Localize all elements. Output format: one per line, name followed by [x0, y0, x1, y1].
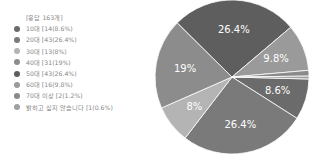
legend-item: 밝히고 싶지 않습니다 [1(0.6%) [14, 102, 113, 113]
slice-label: 19% [174, 63, 196, 74]
legend: [응답 163개] 10대 [14(8.6%) 20대 [43(26.4%) 3… [14, 12, 113, 113]
legend-item: 50대 [43(26.4%) [14, 68, 113, 79]
legend-item: 30대 [13(8%) [14, 46, 113, 57]
legend-dot-icon [14, 37, 20, 43]
legend-total: [응답 163개] [26, 12, 113, 23]
legend-item: 60대 [16(9.8%) [14, 79, 113, 90]
legend-dot-icon [14, 59, 20, 65]
legend-item: 20대 [43(26.4%) [14, 34, 113, 45]
slice-label: 9.8% [263, 53, 288, 64]
legend-dot-icon [14, 71, 20, 77]
slice-label: 8% [186, 101, 202, 112]
slice-label: 26.4% [218, 24, 250, 35]
legend-dot-icon [14, 26, 20, 32]
legend-dot-icon [14, 93, 20, 99]
legend-item: 10대 [14(8.6%) [14, 23, 113, 34]
legend-dot-icon [14, 82, 20, 88]
legend-dot-icon [14, 48, 20, 54]
slice-label: 8.6% [265, 85, 290, 96]
slice-label: 26.4% [224, 119, 256, 130]
legend-item: 40대 [31(19%) [14, 57, 113, 68]
legend-item: 70대 이상 [2(1.2%) [14, 90, 113, 101]
legend-dot-icon [14, 104, 20, 110]
